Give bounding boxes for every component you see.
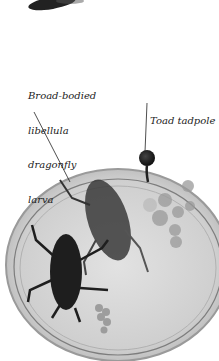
label-line: Toad tadpole xyxy=(150,115,215,127)
label-line: larva xyxy=(28,194,96,206)
cropped-object-top xyxy=(27,0,84,13)
label-line: libellula xyxy=(28,125,96,137)
label-line: Broad-bodied xyxy=(28,90,96,102)
specimen-photo: Broad-bodied libellula dragonfly larva T… xyxy=(0,0,219,361)
label-dragonfly-larva: Broad-bodied libellula dragonfly larva xyxy=(28,67,96,228)
label-line: dragonfly xyxy=(28,159,96,171)
label-toad-tadpole: Toad tadpole xyxy=(150,92,215,150)
leader-line-tadpole xyxy=(145,103,147,152)
